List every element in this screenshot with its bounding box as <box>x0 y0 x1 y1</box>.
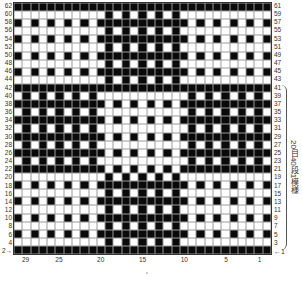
chart-cell <box>196 68 204 76</box>
chart-cell <box>205 173 213 181</box>
chart-cell <box>97 205 105 213</box>
chart-cell <box>105 165 113 173</box>
chart-cell <box>130 116 138 124</box>
row-label: 5 <box>274 232 278 239</box>
chart-cell <box>89 11 97 19</box>
chart-cell <box>163 181 171 189</box>
chart-cell <box>14 11 22 19</box>
chart-cell <box>130 133 138 141</box>
chart-cell <box>230 165 238 173</box>
chart-cell <box>238 149 246 157</box>
chart-cell <box>105 246 113 254</box>
chart-cell <box>138 100 146 108</box>
chart-cell <box>172 60 180 68</box>
chart-cell <box>89 133 97 141</box>
chart-cell <box>238 230 246 238</box>
chart-cell <box>147 205 155 213</box>
chart-cell <box>163 116 171 124</box>
chart-cell <box>213 205 221 213</box>
chart-cell <box>64 60 72 68</box>
chart-cell <box>188 100 196 108</box>
chart-cell <box>138 3 146 11</box>
chart-cell <box>97 157 105 165</box>
chart-cell <box>55 133 63 141</box>
chart-cell <box>113 133 121 141</box>
chart-cell <box>113 116 121 124</box>
chart-cell <box>221 173 229 181</box>
chart-cell <box>80 173 88 181</box>
chart-cell <box>89 222 97 230</box>
chart-cell <box>163 173 171 181</box>
chart-cell <box>205 149 213 157</box>
row-label: 34 <box>0 117 12 124</box>
chart-cell <box>47 214 55 222</box>
chart-cell <box>230 116 238 124</box>
chart-cell <box>47 3 55 11</box>
chart-cell <box>22 100 30 108</box>
chart-cell <box>263 43 271 51</box>
chart-cell <box>122 181 130 189</box>
chart-cell <box>122 100 130 108</box>
chart-cell <box>188 76 196 84</box>
chart-cell <box>147 68 155 76</box>
chart-cell <box>230 92 238 100</box>
chart-cell <box>172 27 180 35</box>
chart-cell <box>230 230 238 238</box>
chart-cell <box>89 68 97 76</box>
chart-cell <box>31 124 39 132</box>
chart-cell <box>31 92 39 100</box>
chart-cell <box>180 246 188 254</box>
chart-cell <box>97 230 105 238</box>
chart-cell <box>47 238 55 246</box>
chart-cell <box>105 133 113 141</box>
chart-cell <box>246 11 254 19</box>
chart-cell <box>263 116 271 124</box>
chart-cell <box>155 246 163 254</box>
chart-cell <box>80 84 88 92</box>
chart-cell <box>254 124 262 132</box>
chart-cell <box>180 230 188 238</box>
chart-cell <box>130 238 138 246</box>
chart-cell <box>138 149 146 157</box>
chart-cell <box>147 141 155 149</box>
chart-cell <box>105 230 113 238</box>
chart-cell <box>172 19 180 27</box>
chart-cell <box>31 141 39 149</box>
chart-cell <box>254 43 262 51</box>
row-label: 46 <box>0 68 12 75</box>
chart-cell <box>213 27 221 35</box>
chart-cell <box>55 189 63 197</box>
chart-cell <box>254 230 262 238</box>
chart-cell <box>72 76 80 84</box>
chart-cell <box>263 92 271 100</box>
chart-cell <box>196 181 204 189</box>
chart-cell <box>122 205 130 213</box>
chart-cell <box>188 3 196 11</box>
start-arrow-right: ←1 <box>274 248 285 255</box>
chart-cell <box>172 92 180 100</box>
chart-cell <box>47 27 55 35</box>
chart-cell <box>97 181 105 189</box>
chart-cell <box>138 27 146 35</box>
chart-cell <box>55 3 63 11</box>
chart-cell <box>64 19 72 27</box>
chart-cell <box>39 43 47 51</box>
chart-cell <box>39 181 47 189</box>
chart-cell <box>39 19 47 27</box>
chart-cell <box>55 35 63 43</box>
chart-cell <box>172 230 180 238</box>
chart-cell <box>113 84 121 92</box>
chart-cell <box>196 205 204 213</box>
column-label: 15 <box>139 257 146 264</box>
chart-cell <box>113 149 121 157</box>
chart-cell <box>155 52 163 60</box>
chart-cell <box>39 84 47 92</box>
chart-cell <box>238 76 246 84</box>
chart-cell <box>246 19 254 27</box>
chart-cell <box>221 230 229 238</box>
chart-cell <box>254 141 262 149</box>
chart-cell <box>39 116 47 124</box>
chart-cell <box>246 181 254 189</box>
chart-cell <box>172 238 180 246</box>
chart-cell <box>122 108 130 116</box>
